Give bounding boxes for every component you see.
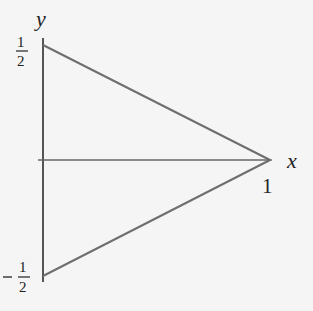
y-tick-half-denominator: 2 [17, 53, 25, 69]
x-tick-one: 1 [262, 174, 273, 198]
triangle-edge-top [43, 45, 270, 160]
x-axis-label: x [286, 148, 297, 173]
y-tick-neg-half: 1 2 [3, 259, 30, 295]
y-tick-neg-half-denominator: 2 [19, 279, 27, 295]
y-tick-half: 1 2 [16, 34, 28, 69]
triangle-diagram: y x 1 1 2 1 2 [0, 0, 313, 311]
y-tick-neg-half-numerator: 1 [19, 259, 27, 275]
diagram-canvas: y x 1 1 2 1 2 [0, 0, 313, 311]
triangle-edge-bottom [43, 160, 270, 276]
y-axis-label: y [34, 6, 46, 31]
y-tick-half-numerator: 1 [17, 34, 25, 50]
